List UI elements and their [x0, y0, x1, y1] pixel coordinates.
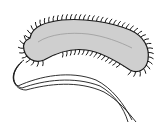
pilus: [109, 19, 112, 24]
pilus: [92, 16, 94, 21]
pilus: [31, 26, 34, 31]
pilus: [53, 16, 54, 21]
pilus: [35, 22, 37, 27]
pilus: [134, 28, 138, 32]
pilus: [138, 31, 142, 34]
pilus: [40, 20, 41, 25]
pilus: [140, 71, 141, 76]
pilus: [109, 60, 113, 64]
bacterium-drawing: [0, 0, 163, 127]
pilus: [70, 15, 71, 20]
pilus: [20, 52, 25, 53]
pilus: [78, 50, 80, 55]
pilus: [28, 30, 32, 34]
pilus: [62, 15, 63, 20]
pilus: [144, 69, 146, 74]
pilus: [96, 17, 98, 22]
pilus: [22, 56, 27, 58]
pilus: [90, 51, 93, 56]
pilus: [134, 72, 136, 77]
cell-body: [23, 19, 148, 71]
pilus: [88, 15, 90, 20]
pilus: [31, 61, 34, 65]
pilus: [74, 50, 75, 55]
pilus: [113, 62, 117, 66]
pilus: [148, 61, 153, 64]
pilus: [25, 36, 30, 38]
pilus: [105, 18, 108, 23]
pilus: [118, 21, 121, 25]
pilus: [70, 50, 71, 55]
pilus: [79, 15, 81, 20]
pilus: [116, 64, 120, 68]
pilus: [101, 17, 103, 22]
pilus: [82, 50, 84, 55]
pilus: [18, 47, 23, 48]
pilus: [144, 39, 149, 41]
pilus: [86, 50, 88, 55]
bacterium-illustration: [0, 0, 163, 127]
pilus: [66, 15, 67, 20]
pilus: [44, 18, 45, 23]
pilus: [146, 65, 150, 69]
pilus: [49, 17, 50, 22]
pilus: [141, 35, 146, 37]
pilus: [57, 16, 58, 21]
pilus: [146, 43, 151, 44]
pilus: [26, 59, 30, 62]
pilus: [122, 23, 125, 27]
pilus: [126, 24, 129, 28]
pilus: [37, 61, 38, 66]
pilus: [148, 52, 153, 53]
pilus: [67, 51, 68, 56]
pilus: [94, 53, 97, 57]
pilus: [128, 71, 131, 75]
pilus: [75, 15, 77, 20]
pilus: [113, 20, 116, 24]
pilus: [105, 58, 109, 62]
pilus: [98, 54, 101, 58]
pilus: [148, 57, 153, 59]
pilus: [130, 26, 133, 30]
flagella: [13, 60, 136, 122]
pilus: [83, 15, 85, 20]
